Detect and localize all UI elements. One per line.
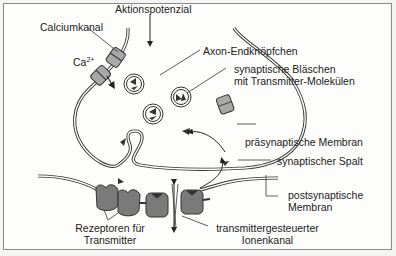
- transmitter-molecule: [120, 138, 126, 146]
- label-blaeschen-1: synaptische Bläschen: [234, 63, 336, 75]
- label-praesynaptische-membran: präsynaptische Membran: [245, 136, 363, 148]
- vesicle: [171, 87, 191, 107]
- label-axon-endknoepfchen: Axon-Endknöpfchen: [203, 45, 298, 57]
- label-ca-charge: 2+: [86, 56, 94, 63]
- receptor: [96, 185, 203, 217]
- label-ca-ion: Ca2+: [73, 56, 94, 68]
- label-aktionspotenzial: Aktionspotenzial: [115, 3, 191, 15]
- label-ca: Ca: [73, 56, 86, 68]
- transmitter-molecule: [222, 161, 229, 166]
- vesicle: [143, 104, 163, 124]
- label-rezeptoren-1: Rezeptoren für: [60, 222, 160, 234]
- calcium-channel-3: [216, 94, 235, 115]
- transmitter-molecule: [182, 128, 190, 135]
- label-blaeschen-2: mit Transmitter-Molekülen: [234, 75, 355, 87]
- label-postsynaptische-2: Membran: [288, 201, 332, 213]
- label-ionenkanal-2: Ionenkanal: [205, 234, 330, 246]
- postsynaptic-membrane: [38, 176, 278, 190]
- calcium-influx-arrow: [107, 76, 113, 86]
- label-ionenkanal-1: transmittergesteuerter: [205, 222, 330, 234]
- label-postsynaptische-1: postsynaptische: [288, 189, 363, 201]
- label-rezeptoren-2: Transmitter: [60, 234, 160, 246]
- label-calciumkanal: Calciumkanal: [40, 21, 103, 33]
- label-synaptischer-spalt: synaptischer Spalt: [277, 155, 363, 167]
- synapse-diagram: [0, 0, 396, 256]
- transmitter-molecule: [118, 178, 124, 184]
- reuptake-arrow-inner: [190, 132, 225, 152]
